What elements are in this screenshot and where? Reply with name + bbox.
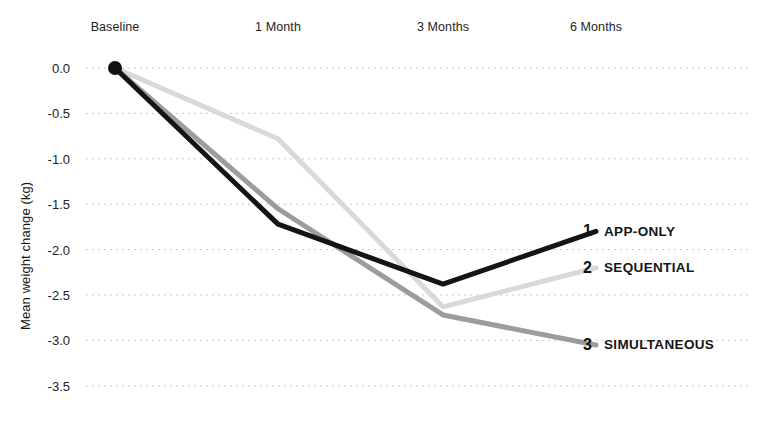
data-point-markers [108, 61, 122, 75]
legend-entry-simultaneous[interactable]: 3SIMULTANEOUS [583, 336, 714, 354]
legend-rank-number: 3 [583, 336, 593, 354]
y-tick-label: -0.5 [22, 106, 70, 121]
y-axis-title: Mean weight change (kg) [18, 182, 33, 330]
baseline-marker-dot [108, 61, 122, 75]
legend-series-label: APP-ONLY [604, 224, 675, 239]
series-line-simultaneous [115, 68, 596, 345]
x-tick-label-1-month: 1 Month [255, 20, 301, 34]
legend-entry-app-only[interactable]: 1APP-ONLY [583, 222, 675, 240]
y-tick-label: 0.0 [22, 61, 70, 76]
x-tick-label-baseline: Baseline [91, 20, 140, 34]
x-tick-label-3-months: 3 Months [417, 20, 469, 34]
y-tick-label: -3.0 [22, 333, 70, 348]
series-line-sequential [115, 68, 596, 307]
legend-series-label: SEQUENTIAL [604, 260, 695, 275]
y-tick-label: -3.5 [22, 378, 70, 393]
legend-rank-number: 1 [583, 222, 593, 240]
legend-entry-sequential[interactable]: 2SEQUENTIAL [583, 259, 695, 277]
line-chart: Baseline1 Month3 Months6 Months 0.0-0.5-… [0, 0, 759, 437]
series-lines [115, 68, 596, 345]
x-tick-label-6-months: 6 Months [570, 20, 622, 34]
y-tick-label: -1.0 [22, 151, 70, 166]
legend-rank-number: 2 [583, 259, 593, 277]
plot-surface [0, 0, 759, 437]
legend-series-label: SIMULTANEOUS [604, 337, 714, 352]
